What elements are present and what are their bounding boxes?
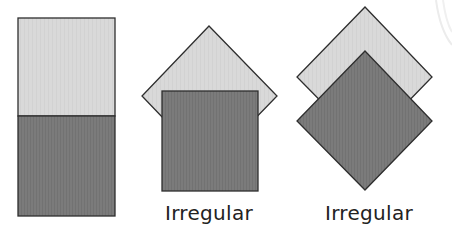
figure-square-over-diamond — [142, 26, 277, 191]
label-diamond-over-diamond: Irregular — [325, 203, 413, 223]
figure-diamond-over-diamond — [297, 7, 432, 190]
light-square-top — [18, 18, 115, 116]
dark-square — [162, 91, 258, 191]
dark-square-bottom — [18, 116, 115, 216]
figure-stacked-rectangle — [18, 18, 115, 216]
label-square-over-diamond: Irregular — [165, 203, 253, 223]
shapes-canvas — [0, 0, 452, 228]
decorative-arc — [436, 0, 452, 45]
